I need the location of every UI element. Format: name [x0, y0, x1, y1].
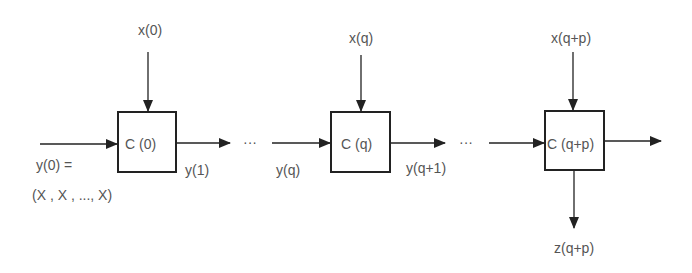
label-y0-value: (X , X , ..., X) — [32, 187, 112, 203]
label-yq1: y(q+1) — [406, 160, 446, 176]
label-y0: y(0) = — [36, 157, 72, 173]
label-xq: x(q) — [349, 30, 373, 46]
cell-label-qp: C (q+p) — [547, 136, 594, 152]
ellipsis-1: ··· — [243, 134, 257, 150]
label-xqp: x(q+p) — [551, 30, 591, 46]
label-y1: y(1) — [185, 162, 209, 178]
label-x0: x(0) — [138, 22, 162, 38]
ellipsis-2: ··· — [459, 134, 473, 150]
label-zqp: z(q+p) — [554, 240, 594, 256]
cell-label-q: C (q) — [341, 136, 372, 152]
pipeline-diagram: x(0) C (0) y(0) = (X , X , ..., X) y(1) … — [0, 0, 692, 273]
cell-label-0: C (0) — [125, 136, 156, 152]
label-yq: y(q) — [276, 162, 300, 178]
